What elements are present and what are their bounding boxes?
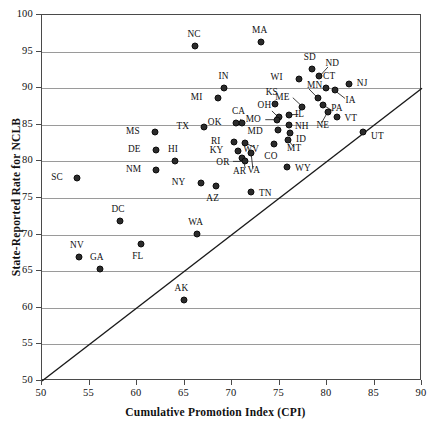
- y-tick-mark-75: [36, 197, 41, 198]
- data-point-sc[interactable]: [74, 174, 81, 181]
- y-tick-mark-95: [36, 51, 41, 52]
- data-point-ga[interactable]: [96, 266, 103, 273]
- point-label-de: DE: [128, 145, 141, 154]
- gridline-y-80: [42, 161, 420, 162]
- point-label-ok: OK: [208, 118, 222, 127]
- x-tick-mark-80: [326, 380, 327, 385]
- data-point-ri[interactable]: [230, 138, 237, 145]
- point-label-nd: ND: [325, 59, 339, 68]
- data-point-ms[interactable]: [152, 129, 159, 136]
- data-point-tn[interactable]: [248, 189, 255, 196]
- x-tick-label-90: 90: [401, 387, 431, 398]
- gridline-y-95: [42, 52, 420, 53]
- y-tick-label-95: 95: [2, 45, 33, 56]
- data-point-sd[interactable]: [308, 66, 315, 73]
- data-point-wi[interactable]: [295, 76, 302, 83]
- point-label-or: OR: [216, 158, 229, 167]
- data-point-va[interactable]: [248, 149, 255, 156]
- data-point-ct[interactable]: [323, 85, 330, 92]
- point-label-pa: PA: [331, 104, 342, 113]
- point-label-co: CO: [264, 152, 277, 161]
- y-tick-label-55: 55: [2, 337, 33, 348]
- data-point-in[interactable]: [221, 85, 228, 92]
- data-point-nm[interactable]: [153, 167, 160, 174]
- point-label-ga: GA: [90, 253, 104, 262]
- x-tick-mark-70: [231, 380, 232, 385]
- data-point-ny[interactable]: [197, 180, 204, 187]
- data-point-vt[interactable]: [333, 114, 340, 121]
- y-tick-mark-90: [36, 87, 41, 88]
- data-point-md[interactable]: [274, 126, 281, 133]
- point-label-ne: NE: [316, 121, 329, 130]
- point-label-nj: NJ: [357, 79, 368, 88]
- y-axis-title: State-Reported Rate for NCLB: [10, 118, 22, 276]
- data-point-ma[interactable]: [257, 39, 264, 46]
- point-label-fl: FL: [132, 252, 143, 261]
- point-label-ar: AR: [233, 167, 246, 176]
- point-label-oh: OH: [258, 101, 272, 110]
- point-label-mn: MN: [307, 81, 322, 90]
- point-label-tx: TX: [176, 122, 189, 131]
- data-point-il[interactable]: [286, 111, 293, 118]
- scatter-plot-figure: NCMASDNDCTNJWIIAMNINPAMEMIKSNEVTILOHCAMO…: [0, 0, 431, 447]
- point-label-tn: TN: [259, 189, 272, 198]
- point-label-ia: IA: [346, 96, 356, 105]
- point-label-nm: NM: [126, 165, 141, 174]
- data-point-co[interactable]: [270, 140, 277, 147]
- data-point-wy[interactable]: [284, 164, 291, 171]
- point-label-ak: AK: [175, 284, 189, 293]
- data-point-fl[interactable]: [137, 241, 144, 248]
- y-tick-label-60: 60: [2, 301, 33, 312]
- data-point-nv[interactable]: [76, 253, 83, 260]
- data-point-ok[interactable]: [232, 120, 239, 127]
- data-point-nc[interactable]: [191, 42, 198, 49]
- plot-area: NCMASDNDCTNJWIIAMNINPAMEMIKSNEVTILOHCAMO…: [41, 14, 421, 380]
- data-point-az[interactable]: [212, 182, 219, 189]
- data-point-nj[interactable]: [345, 80, 352, 87]
- point-label-md: MD: [248, 127, 263, 136]
- data-point-de[interactable]: [153, 147, 160, 154]
- point-label-mi: MI: [191, 93, 203, 102]
- y-tick-mark-80: [36, 160, 41, 161]
- data-point-dc[interactable]: [116, 218, 123, 225]
- x-axis-title: Cumulative Promotion Index (CPI): [0, 406, 431, 418]
- x-tick-mark-50: [41, 380, 42, 385]
- data-point-ne[interactable]: [324, 108, 331, 115]
- data-point-mi[interactable]: [214, 94, 221, 101]
- data-point-mn[interactable]: [314, 94, 321, 101]
- data-point-ak[interactable]: [180, 296, 187, 303]
- gridline-y-90: [42, 88, 420, 89]
- data-point-hi[interactable]: [172, 158, 179, 165]
- data-point-ks[interactable]: [271, 101, 278, 108]
- point-label-ky: KY: [210, 146, 224, 155]
- x-tick-mark-75: [279, 380, 280, 385]
- point-label-va: VA: [248, 166, 261, 175]
- data-point-tx[interactable]: [201, 123, 208, 130]
- gridline-y-75: [42, 198, 420, 199]
- x-tick-label-85: 85: [354, 387, 394, 398]
- data-point-id[interactable]: [286, 129, 293, 136]
- gridline-y-85: [42, 125, 420, 126]
- point-label-az: AZ: [206, 194, 219, 203]
- data-point-mo[interactable]: [273, 116, 280, 123]
- point-label-wi: WI: [271, 73, 283, 82]
- point-label-mt: MT: [287, 144, 301, 153]
- x-tick-mark-65: [184, 380, 185, 385]
- point-label-il: IL: [295, 110, 304, 119]
- point-label-wa: WA: [188, 218, 203, 227]
- point-label-nc: NC: [187, 30, 200, 39]
- point-label-vt: VT: [345, 114, 358, 123]
- point-label-ks: KS: [266, 88, 278, 97]
- gridline-y-55: [42, 344, 420, 345]
- data-point-ut[interactable]: [360, 129, 367, 136]
- data-point-or[interactable]: [242, 158, 249, 165]
- x-tick-label-50: 50: [21, 387, 61, 398]
- data-point-ia[interactable]: [331, 87, 338, 94]
- y-tick-mark-85: [36, 124, 41, 125]
- point-label-sd: SD: [304, 53, 316, 62]
- point-label-ct: CT: [323, 72, 335, 81]
- data-point-nh[interactable]: [286, 121, 293, 128]
- x-tick-mark-55: [89, 380, 90, 385]
- data-point-wa[interactable]: [193, 230, 200, 237]
- data-point-nd[interactable]: [316, 73, 323, 80]
